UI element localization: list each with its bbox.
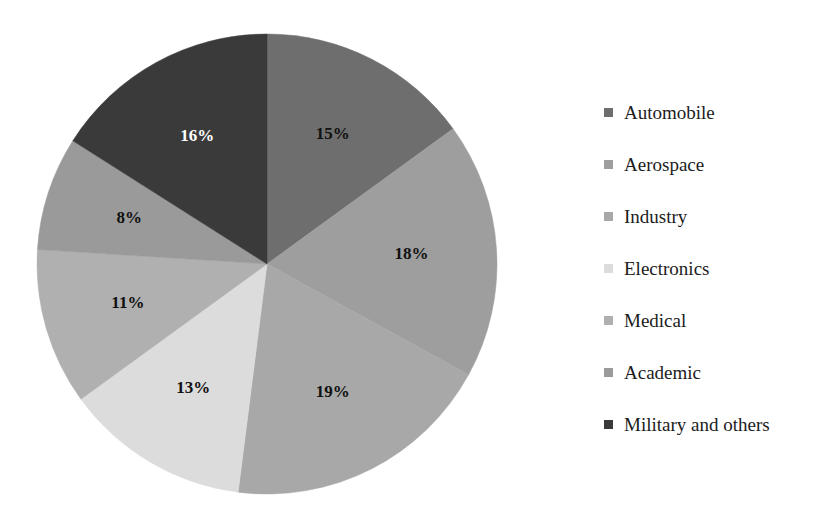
legend-item[interactable]: Automobile xyxy=(604,86,835,138)
pie-slice-data-label: 11% xyxy=(111,293,144,312)
legend-swatch-icon xyxy=(604,420,613,429)
pie-chart-plot-area: 15%18%19%13%11%8%16% xyxy=(0,0,560,505)
pie-slice-data-label: 15% xyxy=(316,124,350,143)
legend-item-label: Automobile xyxy=(624,103,715,122)
pie-slice-data-label: 13% xyxy=(176,378,210,397)
legend-item-label: Medical xyxy=(624,311,686,330)
legend-swatch-icon xyxy=(604,212,613,221)
legend-item[interactable]: Academic xyxy=(604,346,835,398)
legend-item-label: Military and others xyxy=(624,415,770,434)
pie-slice-group xyxy=(37,34,497,494)
pie-chart-svg: 15%18%19%13%11%8%16% xyxy=(0,0,560,505)
legend-item-label: Electronics xyxy=(624,259,709,278)
pie-slice-data-label: 19% xyxy=(316,382,350,401)
chart-legend: AutomobileAerospaceIndustryElectronicsMe… xyxy=(604,86,835,450)
legend-swatch-icon xyxy=(604,160,613,169)
pie-slice-data-label: 18% xyxy=(395,244,429,263)
legend-item[interactable]: Industry xyxy=(604,190,835,242)
legend-item[interactable]: Medical xyxy=(604,294,835,346)
pie-slice-data-label: 16% xyxy=(180,126,214,145)
legend-item[interactable]: Military and others xyxy=(604,398,835,450)
legend-swatch-icon xyxy=(604,264,613,273)
legend-item[interactable]: Aerospace xyxy=(604,138,835,190)
legend-swatch-icon xyxy=(604,108,613,117)
legend-item-label: Academic xyxy=(624,363,701,382)
legend-item[interactable]: Electronics xyxy=(604,242,835,294)
pie-slice-data-label: 8% xyxy=(116,208,142,227)
legend-swatch-icon xyxy=(604,316,613,325)
legend-swatch-icon xyxy=(604,368,613,377)
legend-item-label: Industry xyxy=(624,207,687,226)
legend-item-label: Aerospace xyxy=(624,155,704,174)
pie-chart-figure: 15%18%19%13%11%8%16% AutomobileAerospace… xyxy=(0,0,835,505)
